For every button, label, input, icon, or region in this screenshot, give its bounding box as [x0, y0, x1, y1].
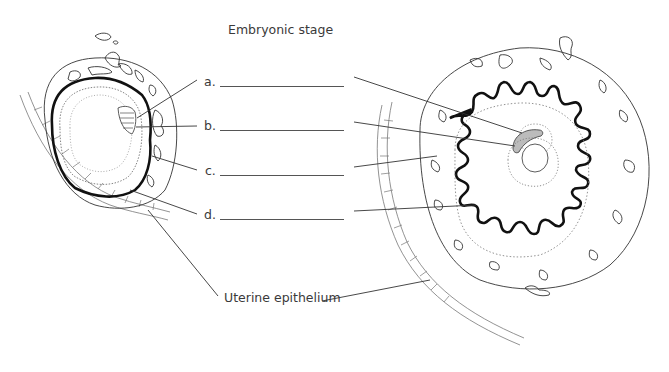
answer-blank-a[interactable]	[220, 86, 344, 87]
label-d: d.	[204, 207, 216, 222]
label-c: c.	[205, 163, 216, 178]
diagram-illustration	[0, 0, 669, 372]
left-decidua	[44, 33, 176, 208]
left-embryonic-disc	[118, 106, 136, 134]
right-embryo	[508, 124, 558, 186]
right-trophoblast	[450, 82, 590, 234]
label-b: b.	[204, 118, 216, 133]
label-a: a.	[204, 74, 216, 89]
diagram-canvas: Embryonic stage a. b. c. d. Uterine epit…	[0, 0, 669, 372]
diagram-title: Embryonic stage	[228, 22, 333, 37]
leader-lines	[130, 77, 522, 301]
left-trophoblast	[52, 78, 151, 197]
answer-blank-c[interactable]	[220, 175, 344, 176]
answer-blank-b[interactable]	[220, 130, 344, 131]
answer-blank-d[interactable]	[220, 219, 344, 220]
uterine-epithelium-label: Uterine epithelium	[224, 290, 341, 305]
